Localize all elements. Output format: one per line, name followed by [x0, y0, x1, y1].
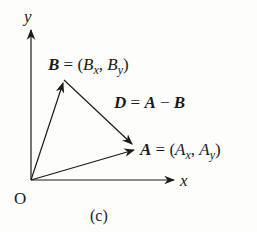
vector-a-label: A = (Ax, Ay) [139, 140, 221, 162]
origin-label: O [14, 189, 26, 208]
figure-caption: (c) [90, 207, 108, 225]
x-axis-label: x [179, 171, 188, 190]
vector-d-arrow [64, 80, 132, 144]
y-axis-label: y [22, 7, 32, 26]
vector-d-label: D = A − B [113, 93, 185, 112]
vector-a-arrow [31, 150, 134, 180]
vector-diagram: y x O B = (Bx, By) D = A − B A = (Ax, Ay… [0, 0, 257, 232]
vector-b-arrow [31, 83, 63, 180]
vector-b-label: B = (Bx, By) [47, 55, 129, 77]
